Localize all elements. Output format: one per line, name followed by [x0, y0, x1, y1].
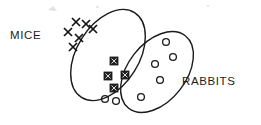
open-circle-icon — [163, 39, 170, 46]
venn-diagram-svg: MICE RABBITS — [0, 0, 261, 125]
x-mark-icon — [82, 20, 90, 28]
x-in-box-icon — [104, 72, 112, 80]
x-mark-icon — [89, 25, 97, 33]
open-circle-icon — [157, 77, 164, 84]
x-mark-icon — [72, 18, 80, 26]
venn-diagram-canvas: MICE RABBITS — [0, 0, 261, 125]
open-circle-icon — [138, 94, 145, 101]
open-circle-icon — [113, 98, 120, 105]
mice-only-markers — [64, 18, 97, 51]
x-in-box-icon — [121, 71, 129, 79]
rabbits-set-label: RABBITS — [182, 75, 235, 87]
x-in-box-icon — [110, 57, 118, 65]
x-mark-icon — [69, 43, 77, 51]
mice-set-label: MICE — [10, 29, 41, 41]
x-mark-icon — [64, 28, 72, 36]
x-in-box-icon — [110, 84, 118, 92]
open-circle-icon — [152, 61, 159, 68]
intersection-markers — [104, 57, 129, 92]
open-circle-icon — [170, 54, 177, 61]
